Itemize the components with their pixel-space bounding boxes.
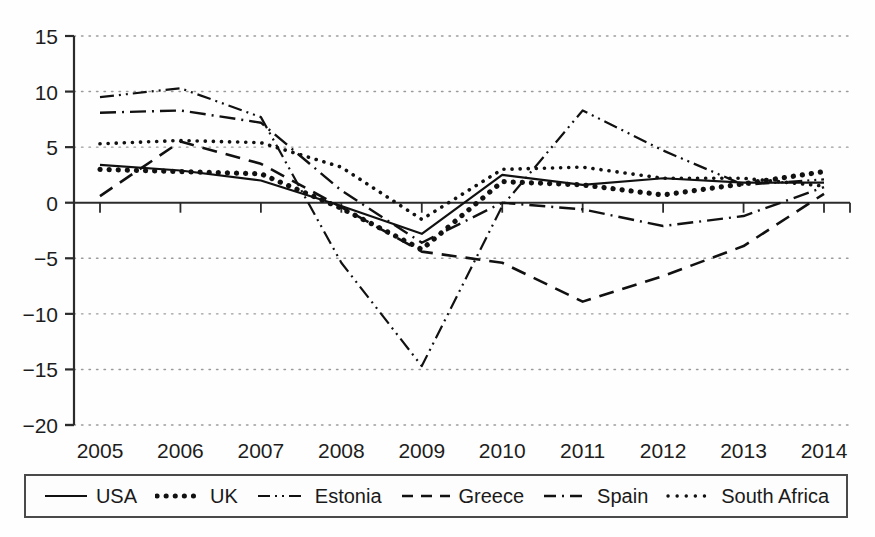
x-axis-tick-label: 2005 xyxy=(77,439,124,462)
series-line-greece xyxy=(100,142,824,302)
y-axis-tick-label: 10 xyxy=(35,81,58,104)
legend-swatch-dash-dot-dot-icon xyxy=(256,489,308,503)
y-axis-tick-label: −15 xyxy=(22,358,58,381)
legend-swatch-solid-icon xyxy=(43,489,89,503)
y-axis-tick-label: −10 xyxy=(22,303,58,326)
legend-label: Greece xyxy=(459,485,525,508)
x-axis-tick-label: 2006 xyxy=(157,439,204,462)
legend-item-spain[interactable]: Spain xyxy=(542,485,648,508)
legend-label: UK xyxy=(210,485,238,508)
y-axis-labels: 151050−5−10−15−20 xyxy=(22,25,58,437)
y-axis-tick-label: 15 xyxy=(35,25,58,48)
legend-item-greece[interactable]: Greece xyxy=(400,485,525,508)
chart-page: 151050−5−10−15−20 2005200620072008200920… xyxy=(0,0,875,537)
series-line-spain xyxy=(100,110,824,242)
y-axis-tick-label: −5 xyxy=(34,247,58,270)
legend-item-uk[interactable]: UK xyxy=(155,485,238,508)
legend-swatch-fine-dotted-icon xyxy=(666,489,714,503)
legend-label: Spain xyxy=(597,485,648,508)
chart-legend: USAUKEstoniaGreeceSpainSouth Africa xyxy=(24,474,848,518)
legend-label: USA xyxy=(96,485,137,508)
x-axis-tick-label: 2011 xyxy=(560,439,605,462)
chart-plot-area: 151050−5−10−15−20 2005200620072008200920… xyxy=(0,0,875,470)
x-axis-tick-label: 2014 xyxy=(801,439,848,462)
y-axis-tick-label: 0 xyxy=(46,192,58,215)
legend-swatch-dashed-icon xyxy=(400,489,452,503)
legend-swatch-dash-dot-icon xyxy=(542,489,590,503)
series-line-usa xyxy=(100,165,824,234)
data-series-group xyxy=(100,88,824,366)
legend-label: Estonia xyxy=(315,485,382,508)
legend-label: South Africa xyxy=(721,485,829,508)
x-axis-tick-label: 2013 xyxy=(720,439,767,462)
legend-items-row: USAUKEstoniaGreeceSpainSouth Africa xyxy=(34,485,838,508)
legend-swatch-thick-dotted-icon xyxy=(155,489,203,503)
x-axis-tick-label: 2010 xyxy=(479,439,526,462)
y-axis-tick-label: 5 xyxy=(46,136,58,159)
x-axis-labels: 2005200620072008200920102011201220132014 xyxy=(77,439,848,462)
x-axis-tick-label: 2009 xyxy=(398,439,445,462)
y-axis-ticks xyxy=(65,36,74,425)
series-line-estonia xyxy=(100,88,824,366)
axes xyxy=(74,36,850,425)
grid-lines xyxy=(74,36,850,425)
legend-item-estonia[interactable]: Estonia xyxy=(256,485,382,508)
x-axis-tick-label: 2008 xyxy=(318,439,365,462)
line-chart-svg: 151050−5−10−15−20 2005200620072008200920… xyxy=(0,0,875,470)
x-axis-tick-label: 2007 xyxy=(238,439,285,462)
x-axis-tick-label: 2012 xyxy=(640,439,687,462)
series-line-south-africa xyxy=(100,140,824,219)
legend-item-south-africa[interactable]: South Africa xyxy=(666,485,829,508)
y-axis-tick-label: −20 xyxy=(22,414,58,437)
legend-item-usa[interactable]: USA xyxy=(43,485,137,508)
